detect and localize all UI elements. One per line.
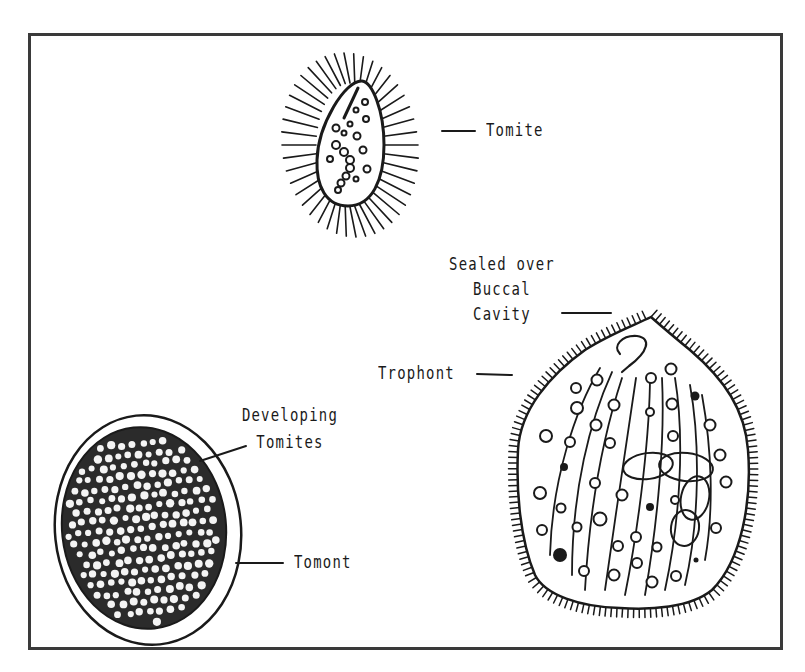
tomite-body — [317, 81, 384, 206]
label-developing: Developing — [233, 405, 348, 425]
tomite-cell — [282, 53, 418, 237]
label-cavity: Cavity — [445, 304, 560, 324]
label-tomite: Tomite — [486, 120, 544, 140]
trophont-cell — [509, 310, 758, 617]
label-tomont: Tomont — [294, 552, 352, 572]
label-buccal: Buccal — [445, 279, 560, 299]
trophont-leader-line — [477, 374, 512, 375]
label-trophont: Trophont — [378, 363, 455, 383]
label-tomites: Tomites — [233, 432, 348, 452]
diagram-artwork — [0, 0, 805, 672]
tomont-cyst — [43, 406, 252, 654]
label-sealed-over: Sealed over — [445, 254, 560, 274]
